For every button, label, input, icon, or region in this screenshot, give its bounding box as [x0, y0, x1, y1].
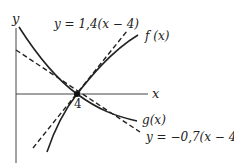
x-axis-label: x [152, 86, 160, 101]
g-curve-label: g(x) [142, 113, 166, 127]
tangent-positive-label: y = 1,4(x − 4) [53, 17, 139, 31]
tangent-negative-label: y = −0,7(x − 4) [145, 130, 234, 144]
tangent-lines-diagram: y x 4 y = 1,4(x − 4) f (x) g(x) y = −0,7… [0, 0, 234, 165]
f-curve-label: f (x) [144, 29, 170, 43]
tick-label-4: 4 [74, 97, 82, 111]
y-axis-label: y [11, 11, 20, 26]
tangent-line-negative [16, 50, 140, 132]
